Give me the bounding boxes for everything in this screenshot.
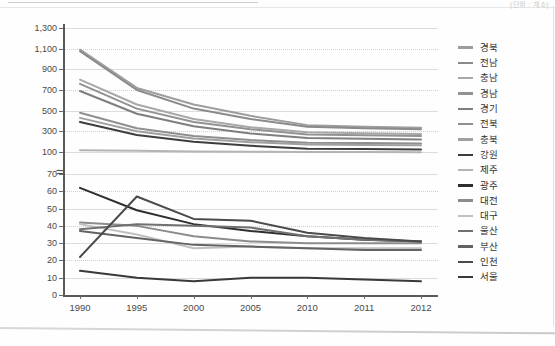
legend-swatch-icon bbox=[458, 154, 473, 156]
x-tick bbox=[80, 295, 81, 299]
y-axis-tick-label: 1,300 bbox=[34, 23, 57, 33]
y-axis-tick-label: 1,100 bbox=[34, 44, 57, 54]
legend-item-광주[interactable]: 광주 bbox=[458, 178, 552, 193]
legend-item-부산[interactable]: 부산 bbox=[458, 239, 552, 254]
x-axis-tick-label: 2000 bbox=[183, 302, 204, 313]
legend-label: 전남 bbox=[480, 58, 498, 68]
legend-item-인천[interactable]: 인천 bbox=[458, 254, 552, 269]
legend-item-울산[interactable]: 울산 bbox=[458, 224, 552, 239]
legend-label: 부산 bbox=[480, 242, 498, 252]
chart-page: (단위 : 개소) 1003005007009001,1001,30001020… bbox=[0, 0, 555, 346]
legend-label: 대전 bbox=[480, 196, 498, 206]
unit-label: (단위 : 개소) bbox=[510, 0, 549, 9]
legend-swatch-icon bbox=[458, 92, 473, 94]
series-line-제주 bbox=[80, 150, 421, 152]
legend-swatch-icon bbox=[458, 245, 473, 247]
legend-label: 대구 bbox=[480, 211, 498, 221]
legend-item-강원[interactable]: 강원 bbox=[458, 147, 552, 162]
legend-label: 강원 bbox=[480, 150, 498, 160]
legend-item-충남[interactable]: 충남 bbox=[458, 71, 552, 86]
legend-item-경기[interactable]: 경기 bbox=[458, 101, 552, 116]
series-line-경북 bbox=[80, 50, 421, 128]
y-axis-tick-label: 20 bbox=[47, 255, 57, 265]
legend-item-대구[interactable]: 대구 bbox=[458, 208, 552, 223]
legend-swatch-icon bbox=[458, 169, 473, 171]
legend-label: 충북 bbox=[480, 135, 498, 145]
x-axis-tick-label: 2010 bbox=[297, 302, 318, 313]
plot-area: 1990199520002005201020112012 bbox=[63, 24, 438, 296]
legend-label: 제주 bbox=[480, 165, 498, 175]
legend-item-제주[interactable]: 제주 bbox=[458, 162, 552, 177]
legend-swatch-icon bbox=[458, 138, 473, 140]
legend-label: 서울 bbox=[480, 272, 498, 282]
legend-swatch-icon bbox=[458, 261, 473, 263]
axis-break-symbol: ≈ bbox=[55, 168, 62, 177]
legend-item-경북[interactable]: 경북 bbox=[458, 40, 552, 55]
series-line-전남 bbox=[80, 51, 421, 129]
y-axis-tick-label: 700 bbox=[42, 85, 57, 95]
scan-edge-right bbox=[553, 6, 554, 326]
legend-item-경남[interactable]: 경남 bbox=[458, 86, 552, 101]
legend-label: 경북 bbox=[480, 43, 498, 53]
legend-label: 경남 bbox=[480, 89, 498, 99]
series-line-서울 bbox=[80, 271, 421, 281]
scan-edge-bottom bbox=[0, 327, 555, 334]
legend-item-전남[interactable]: 전남 bbox=[458, 55, 552, 70]
legend-swatch-icon bbox=[458, 184, 473, 186]
legend-swatch-icon bbox=[458, 46, 473, 48]
x-tick bbox=[137, 295, 138, 299]
legend-swatch-icon bbox=[458, 276, 473, 278]
legend-item-충북[interactable]: 충북 bbox=[458, 132, 552, 147]
y-axis-tick-label: 100 bbox=[42, 147, 57, 157]
y-axis-tick-label: 500 bbox=[42, 106, 57, 116]
legend-swatch-icon bbox=[458, 215, 473, 217]
y-axis-tick-label: 900 bbox=[42, 64, 57, 74]
x-tick bbox=[194, 295, 195, 299]
legend-item-대전[interactable]: 대전 bbox=[458, 193, 552, 208]
legend-swatch-icon bbox=[458, 230, 473, 232]
x-tick bbox=[251, 295, 252, 299]
x-axis-tick-label: 2012 bbox=[410, 302, 431, 313]
x-axis-tick-label: 1990 bbox=[69, 302, 90, 313]
x-axis-tick-label: 2011 bbox=[354, 302, 374, 313]
x-axis-tick-label: 1995 bbox=[126, 302, 147, 313]
legend-swatch-icon bbox=[458, 199, 473, 201]
legend-item-전북[interactable]: 전북 bbox=[458, 116, 552, 131]
legend-item-서울[interactable]: 서울 bbox=[458, 269, 552, 284]
series-line-충북 bbox=[80, 118, 421, 145]
legend-label: 경기 bbox=[480, 104, 498, 114]
x-tick bbox=[364, 295, 365, 299]
legend-swatch-icon bbox=[458, 62, 473, 64]
legend-label: 인천 bbox=[480, 257, 498, 267]
legend-label: 전북 bbox=[480, 119, 498, 129]
y-axis-tick-label: 300 bbox=[42, 126, 57, 136]
y-axis-tick-label: 10 bbox=[47, 273, 57, 283]
series-lines bbox=[63, 24, 438, 296]
legend-swatch-icon bbox=[458, 77, 473, 79]
y-axis-tick-label: 30 bbox=[47, 238, 57, 248]
x-axis-tick-label: 2005 bbox=[240, 302, 261, 313]
chart-legend: 경북전남충남경남경기전북충북강원제주광주대전대구울산부산인천서울 bbox=[458, 40, 552, 285]
legend-swatch-icon bbox=[458, 123, 473, 125]
y-axis-tick-label: 40 bbox=[47, 221, 57, 231]
scan-edge-top-line bbox=[8, 2, 258, 3]
legend-swatch-icon bbox=[458, 108, 473, 110]
legend-label: 광주 bbox=[480, 181, 498, 191]
y-axis-tick-label: 60 bbox=[47, 186, 57, 196]
legend-label: 울산 bbox=[480, 226, 498, 236]
legend-label: 충남 bbox=[480, 73, 498, 83]
x-tick bbox=[307, 295, 308, 299]
y-axis-labels: 1003005007009001,1001,300010203040506070 bbox=[0, 24, 57, 296]
x-tick bbox=[421, 295, 422, 299]
y-axis-tick-label: 0 bbox=[52, 290, 57, 300]
y-axis-tick-label: 50 bbox=[47, 204, 57, 214]
